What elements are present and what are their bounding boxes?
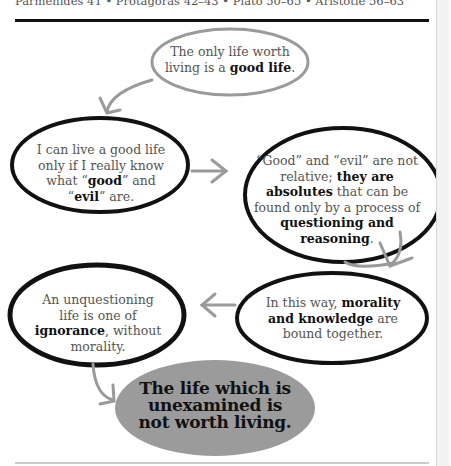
node-know-good-evil: I can live a good life only if I really … (28, 142, 174, 204)
node-conclusion: The life which is unexamined is not wort… (130, 380, 300, 431)
bottom-rule (15, 462, 429, 464)
arrow-icon (93, 364, 114, 404)
node-morality-knowledge: In this way, morality and knowledge are … (258, 295, 408, 342)
node-absolutes: “Good” and “evil” are not relative; they… (252, 153, 422, 246)
arrow-icon (192, 160, 226, 182)
arrow-icon (202, 294, 235, 316)
book-page: Parmenides 41 • Protagoras 42–43 • Plato… (0, 0, 436, 466)
node-ignorance: An unquestioning life is one of ignoranc… (32, 292, 164, 354)
node-good-life: The only life worth living is a good lif… (160, 44, 300, 75)
arrow-icon (100, 80, 152, 113)
page-edge (436, 0, 449, 466)
